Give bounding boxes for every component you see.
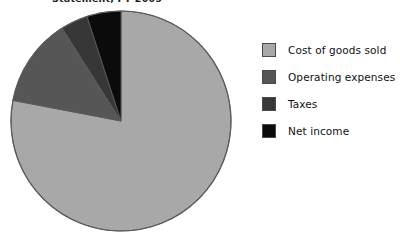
legend-item-label: Operating expenses [288, 71, 395, 83]
legend-item-net-income[interactable]: Net income [262, 117, 401, 144]
chart-canvas: Statement, FY 2005 Cost of goods sold Op… [0, 0, 401, 239]
legend-item-label: Cost of goods sold [288, 44, 386, 56]
legend-swatch-icon [262, 124, 276, 138]
legend-swatch-icon [262, 97, 276, 111]
pie-chart [10, 10, 232, 232]
legend-item-operating-expenses[interactable]: Operating expenses [262, 63, 401, 90]
pie-slices [11, 11, 231, 231]
legend-swatch-icon [262, 43, 276, 57]
chart-legend: Cost of goods sold Operating expenses Ta… [262, 36, 401, 144]
chart-title: Statement, FY 2005 [52, 0, 232, 4]
legend-item-cost-of-goods-sold[interactable]: Cost of goods sold [262, 36, 401, 63]
legend-swatch-icon [262, 70, 276, 84]
legend-item-label: Taxes [288, 98, 317, 110]
legend-item-label: Net income [288, 125, 349, 137]
legend-item-taxes[interactable]: Taxes [262, 90, 401, 117]
pie-svg [10, 10, 232, 232]
